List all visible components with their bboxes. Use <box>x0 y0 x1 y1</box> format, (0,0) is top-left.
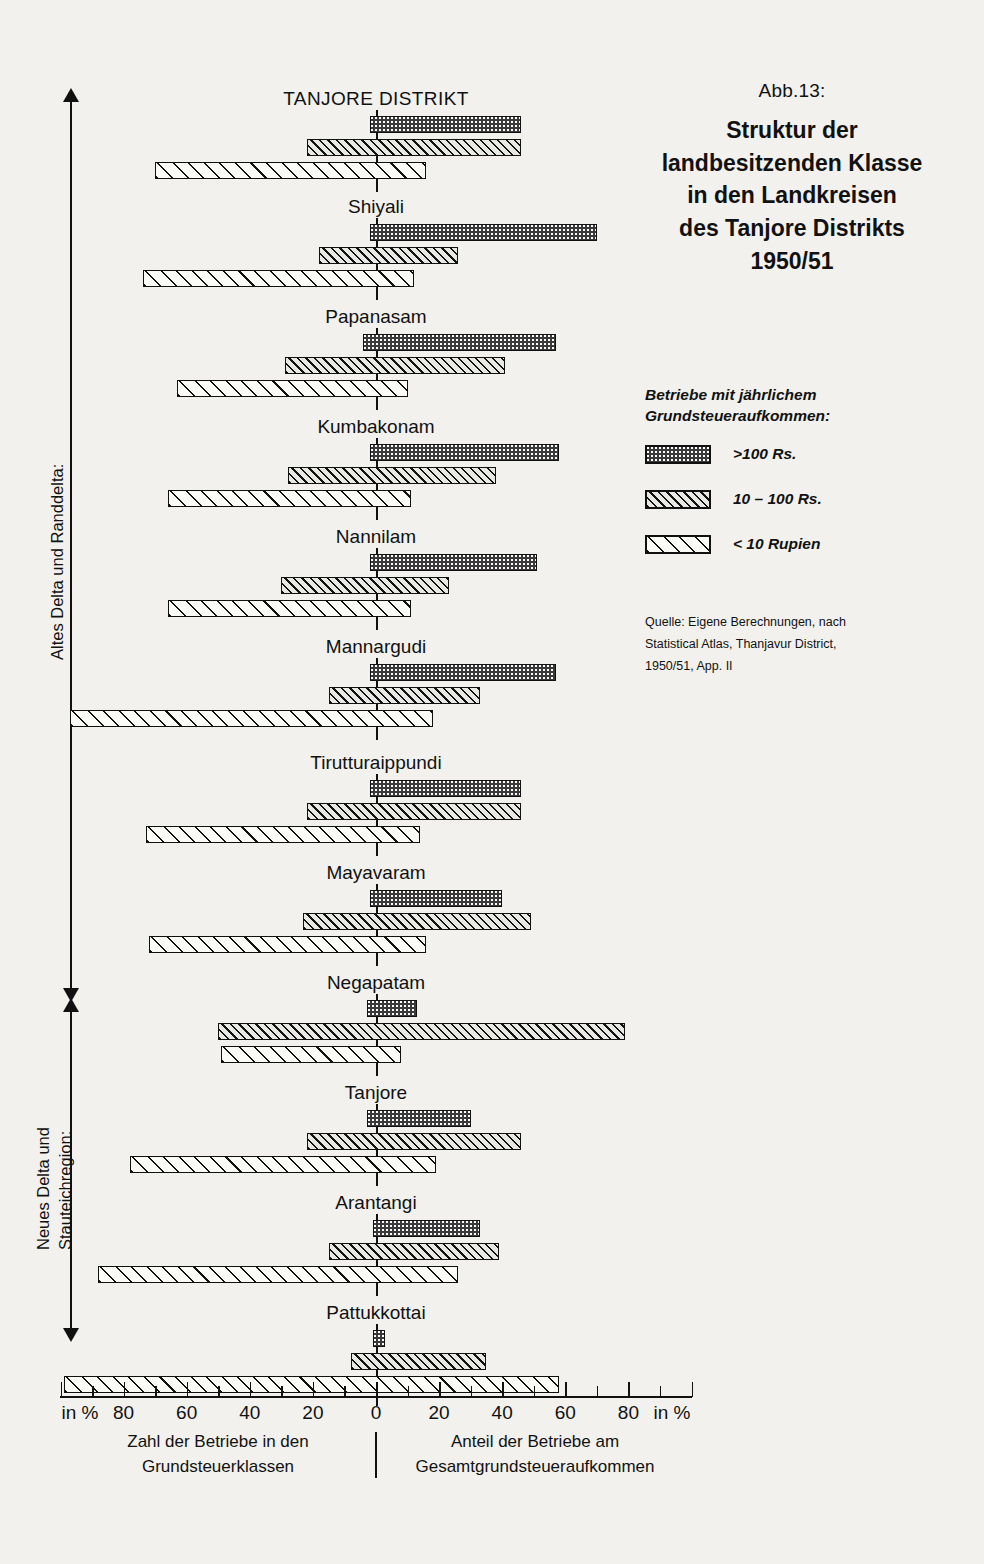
axis-tick-major <box>376 1382 378 1397</box>
axis-caption-right-line: Gesamtgrundsteueraufkommen <box>378 1455 692 1480</box>
axis-tick-major <box>187 1382 189 1397</box>
axis-tick-label: 0 <box>371 1402 382 1424</box>
axis-unit-right: in % <box>654 1402 691 1424</box>
axis-tick-major <box>124 1382 126 1397</box>
axis-tick-minor <box>92 1386 94 1397</box>
axis-tick-major <box>565 1382 567 1397</box>
chart-axis: Zahl der Betriebe in den Grundsteuerklas… <box>0 0 984 1564</box>
axis-tick-minor <box>218 1386 220 1397</box>
axis-tick-label: 40 <box>492 1402 513 1424</box>
axis-tick-minor <box>408 1386 410 1397</box>
axis-caption-right-line: Anteil der Betriebe am <box>378 1430 692 1455</box>
axis-tick-major <box>502 1382 504 1397</box>
axis-tick-minor <box>534 1386 536 1397</box>
axis-caption-left: Zahl der Betriebe in den Grundsteuerklas… <box>60 1430 376 1479</box>
axis-tick-major <box>439 1382 441 1397</box>
axis-unit-left: in % <box>62 1402 99 1424</box>
axis-tick-minor <box>597 1386 599 1397</box>
axis-tick-label: 60 <box>176 1402 197 1424</box>
axis-caption-left-line: Grundsteuerklassen <box>60 1455 376 1480</box>
axis-tick-major <box>250 1382 252 1397</box>
axis-tick-label: 20 <box>429 1402 450 1424</box>
axis-tick-label: 20 <box>302 1402 323 1424</box>
axis-tick-major <box>313 1382 315 1397</box>
axis-end-cap <box>61 1382 63 1397</box>
axis-tick-minor <box>660 1386 662 1397</box>
axis-caption-right: Anteil der Betriebe am Gesamtgrundsteuer… <box>378 1430 692 1479</box>
axis-tick-major <box>628 1382 630 1397</box>
axis-caption-separator <box>375 1432 377 1478</box>
axis-tick-minor <box>471 1386 473 1397</box>
axis-tick-minor <box>155 1386 157 1397</box>
axis-caption-left-line: Zahl der Betriebe in den <box>60 1430 376 1455</box>
axis-tick-label: 80 <box>113 1402 134 1424</box>
axis-tick-minor <box>281 1386 283 1397</box>
axis-end-cap <box>692 1382 694 1397</box>
axis-tick-label: 60 <box>555 1402 576 1424</box>
axis-tick-label: 40 <box>239 1402 260 1424</box>
axis-tick-minor <box>344 1386 346 1397</box>
axis-tick-label: 80 <box>618 1402 639 1424</box>
